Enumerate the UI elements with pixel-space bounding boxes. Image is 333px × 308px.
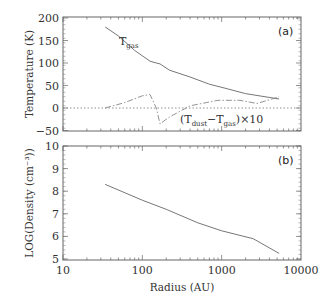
- y-axis-title-temperature: Temperature (K): [23, 30, 35, 118]
- panel-a: 200150100500−50 (a) Tgas (Tdust−Tgas)×10…: [23, 12, 301, 138]
- panel-b-y-tick-labels: 1098765: [45, 140, 59, 266]
- y-tick-label: 150: [38, 35, 59, 48]
- panel-b-ticks: [63, 146, 301, 260]
- y-tick-label: 8: [52, 185, 59, 198]
- x-tick-label: 100: [132, 264, 153, 277]
- y-tick-label: −50: [36, 125, 59, 138]
- x-tick-label: 10000: [284, 264, 319, 277]
- y-tick-label: 10: [45, 140, 59, 153]
- panel-b-frame: [63, 146, 301, 260]
- chart-figure: 200150100500−50 (a) Tgas (Tdust−Tgas)×10…: [0, 0, 333, 308]
- tgas-line: [105, 27, 279, 99]
- panel-b: 1098765 (b) LOG(Density (cm⁻³)): [23, 140, 301, 266]
- y-tick-label: 50: [45, 80, 59, 93]
- x-tick-label: 10: [56, 264, 70, 277]
- y-tick-label: 7: [52, 208, 59, 221]
- y-tick-label: 6: [52, 230, 59, 243]
- x-tick-label: 1000: [208, 264, 236, 277]
- density-line: [105, 184, 279, 253]
- tgas-label: Tgas: [119, 35, 139, 50]
- y-tick-label: 0: [52, 102, 59, 115]
- panel-a-y-tick-labels: 200150100500−50: [36, 12, 59, 138]
- y-tick-label: 100: [38, 57, 59, 70]
- panel-b-label: (b): [278, 154, 294, 167]
- y-tick-label: 200: [38, 12, 59, 25]
- panel-a-label: (a): [278, 25, 293, 38]
- x-axis-tick-labels: 10100100010000: [56, 264, 319, 277]
- tdust-minus-tgas-label: (Tdust−Tgas)×10: [180, 113, 263, 128]
- y-tick-label: 9: [52, 163, 59, 176]
- y-axis-title-density: LOG(Density (cm⁻³)): [23, 148, 35, 258]
- x-axis-title: Radius (AU): [150, 281, 215, 293]
